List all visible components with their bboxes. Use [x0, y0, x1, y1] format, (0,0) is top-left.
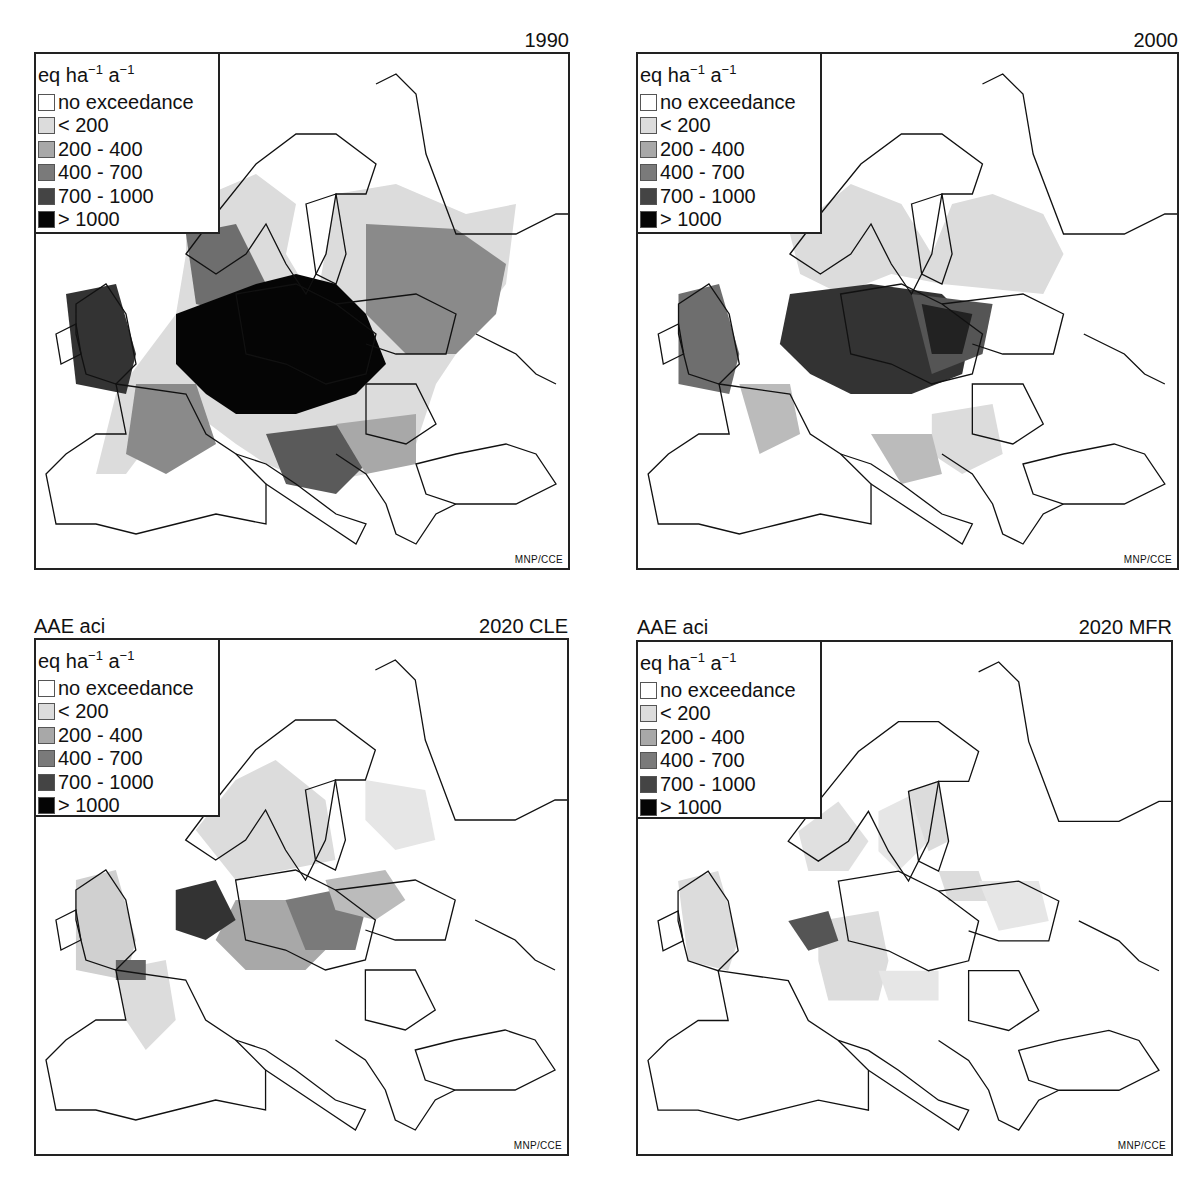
swatch-no-exceedance: [38, 680, 55, 697]
legend-item: 700 - 1000: [38, 771, 218, 795]
panel-subtitle: AAE aci: [637, 617, 708, 637]
panel-subtitle: AAE aci: [34, 616, 105, 636]
map-frame: eq ha−1 a−1 no exceedance < 200 200 - 40…: [34, 638, 569, 1156]
legend-unit: eq ha−1 a−1: [38, 644, 218, 673]
legend-item: < 200: [640, 702, 820, 726]
legend-item: no exceedance: [640, 679, 820, 703]
panel-title: 2000: [1078, 30, 1178, 50]
legend-item: no exceedance: [38, 677, 218, 701]
legend-item: 200 - 400: [640, 726, 820, 750]
legend-item: 700 - 1000: [640, 185, 820, 209]
swatch-700-1000: [640, 188, 657, 205]
credit-label: MNP/CCE: [515, 554, 563, 565]
legend-item: > 1000: [640, 796, 820, 820]
swatch-400-700: [38, 750, 55, 767]
legend-item: 400 - 700: [38, 747, 218, 771]
legend-unit: eq ha−1 a−1: [640, 646, 820, 675]
swatch-400-700: [640, 752, 657, 769]
credit-label: MNP/CCE: [1118, 1140, 1166, 1151]
legend: eq ha−1 a−1 no exceedance < 200 200 - 40…: [636, 640, 822, 819]
swatch-lt-200: [640, 705, 657, 722]
swatch-400-700: [640, 164, 657, 181]
swatch-700-1000: [640, 776, 657, 793]
swatch-lt-200: [38, 117, 55, 134]
panel-title: 2020 CLE: [418, 616, 568, 636]
swatch-200-400: [38, 727, 55, 744]
map-frame: eq ha−1 a−1 no exceedance < 200 200 - 40…: [636, 52, 1179, 570]
legend-item: 400 - 700: [640, 749, 820, 773]
swatch-200-400: [38, 141, 55, 158]
legend-item: 400 - 700: [38, 161, 218, 185]
swatch-gt-1000: [38, 211, 55, 228]
legend-item: < 200: [38, 114, 218, 138]
swatch-gt-1000: [640, 799, 657, 816]
legend-item: > 1000: [640, 208, 820, 232]
legend-unit: eq ha−1 a−1: [640, 58, 820, 87]
legend: eq ha−1 a−1 no exceedance < 200 200 - 40…: [636, 52, 822, 234]
map-frame: eq ha−1 a−1 no exceedance < 200 200 - 40…: [34, 52, 570, 570]
swatch-400-700: [38, 164, 55, 181]
legend-item: 400 - 700: [640, 161, 820, 185]
swatch-200-400: [640, 729, 657, 746]
legend-item: > 1000: [38, 794, 218, 818]
swatch-gt-1000: [640, 211, 657, 228]
legend-item: 700 - 1000: [38, 185, 218, 209]
credit-label: MNP/CCE: [514, 1140, 562, 1151]
legend: eq ha−1 a−1 no exceedance < 200 200 - 40…: [34, 52, 220, 234]
legend-item: < 200: [38, 700, 218, 724]
legend-item: no exceedance: [640, 91, 820, 115]
swatch-no-exceedance: [38, 94, 55, 111]
credit-label: MNP/CCE: [1124, 554, 1172, 565]
swatch-700-1000: [38, 188, 55, 205]
swatch-lt-200: [38, 703, 55, 720]
swatch-lt-200: [640, 117, 657, 134]
map-frame: eq ha−1 a−1 no exceedance < 200 200 - 40…: [636, 640, 1173, 1156]
legend-item: 200 - 400: [640, 138, 820, 162]
legend-unit: eq ha−1 a−1: [38, 58, 218, 87]
legend: eq ha−1 a−1 no exceedance < 200 200 - 40…: [34, 638, 220, 817]
legend-item: > 1000: [38, 208, 218, 232]
swatch-no-exceedance: [640, 682, 657, 699]
swatch-700-1000: [38, 774, 55, 791]
panel-title: 2020 MFR: [1022, 617, 1172, 637]
swatch-200-400: [640, 141, 657, 158]
panel-title: 1990: [469, 30, 569, 50]
legend-item: 700 - 1000: [640, 773, 820, 797]
legend-item: 200 - 400: [38, 138, 218, 162]
swatch-gt-1000: [38, 797, 55, 814]
legend-item: no exceedance: [38, 91, 218, 115]
legend-item: < 200: [640, 114, 820, 138]
swatch-no-exceedance: [640, 94, 657, 111]
legend-item: 200 - 400: [38, 724, 218, 748]
